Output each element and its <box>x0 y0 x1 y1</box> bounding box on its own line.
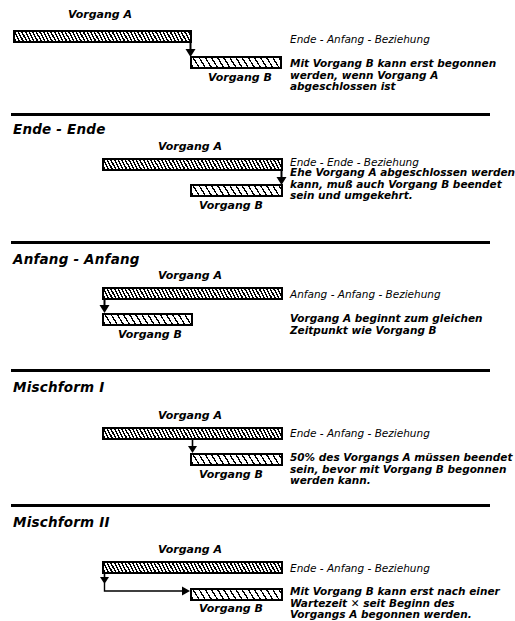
desc-line: Vorgang A beginnt zum gleichen <box>290 313 490 325</box>
desc-line: 50% des Vorgangs A müssen beendet <box>290 452 490 464</box>
activity-bar-a <box>102 561 283 574</box>
bar-b-caption: Vorgang B <box>199 602 263 615</box>
desc-line: abgeschlossen ist <box>290 81 490 93</box>
activity-bar-b <box>102 313 193 326</box>
arrow-end-to-start <box>186 43 196 57</box>
section-divider <box>11 241 490 244</box>
desc-line: Ehe Vorgang A abgeschlossen werden <box>290 167 490 179</box>
desc-line: Mit Vorgang B kann erst nach einer <box>290 586 490 598</box>
bar-b-caption: Vorgang B <box>199 468 263 481</box>
desc-line: werden kann. <box>290 475 490 487</box>
relation-description: 50% des Vorgangs A müssen beendet sein, … <box>290 452 490 487</box>
bar-a-caption: Vorgang A <box>158 269 222 282</box>
activity-bar-a <box>102 287 283 300</box>
desc-line: Mit Vorgang B kann erst begonnen <box>290 58 490 70</box>
activity-bar-a <box>13 30 192 43</box>
bar-b-caption: Vorgang B <box>199 199 263 212</box>
arrow-mid-to-start <box>188 440 197 453</box>
bar-a-caption: Vorgang A <box>158 409 222 422</box>
relation-description: Mit Vorgang B kann erst nach einer Warte… <box>290 586 490 621</box>
arrow-start-to-start <box>100 300 110 313</box>
activity-bar-b <box>190 56 282 69</box>
desc-line: Vorgangs A begonnen werden. <box>290 609 490 621</box>
section-heading: Mischform II <box>13 514 110 530</box>
bar-a-caption: Vorgang A <box>158 543 222 556</box>
desc-line: sein und umgekehrt. <box>290 190 490 202</box>
section-divider <box>11 113 490 116</box>
relation-title: Anfang - Anfang - Beziehung <box>290 288 441 300</box>
section-heading: Ende - Ende <box>13 121 106 137</box>
activity-bar-a <box>102 427 283 440</box>
activity-bar-a <box>102 158 283 171</box>
bar-b-caption: Vorgang B <box>208 71 272 84</box>
relation-title: Ende - Anfang - Beziehung <box>290 427 430 439</box>
activity-bar-b <box>190 453 283 466</box>
bar-b-caption: Vorgang B <box>118 328 182 341</box>
bar-a-caption: Vorgang A <box>158 140 222 153</box>
relation-description: Vorgang A beginnt zum gleichen Zeitpunkt… <box>290 313 490 336</box>
section-divider <box>11 504 490 507</box>
activity-bar-b <box>190 588 283 601</box>
relation-description: Ehe Vorgang A abgeschlossen werden kann,… <box>290 167 490 202</box>
section-heading: Mischform I <box>13 379 105 395</box>
arrow-end-to-end <box>277 171 287 185</box>
arrow-start-lag-to-start <box>100 574 190 596</box>
relation-description: Mit Vorgang B kann erst begonnen werden,… <box>290 58 490 93</box>
section-divider <box>11 369 490 372</box>
bar-a-caption: Vorgang A <box>68 8 132 21</box>
relation-title: Ende - Anfang - Beziehung <box>290 562 430 574</box>
desc-line: Zeitpunkt wie Vorgang B <box>290 325 490 337</box>
activity-bar-b <box>190 184 283 197</box>
section-heading: Anfang - Anfang <box>13 251 140 267</box>
relation-title: Ende - Anfang - Beziehung <box>290 33 430 45</box>
